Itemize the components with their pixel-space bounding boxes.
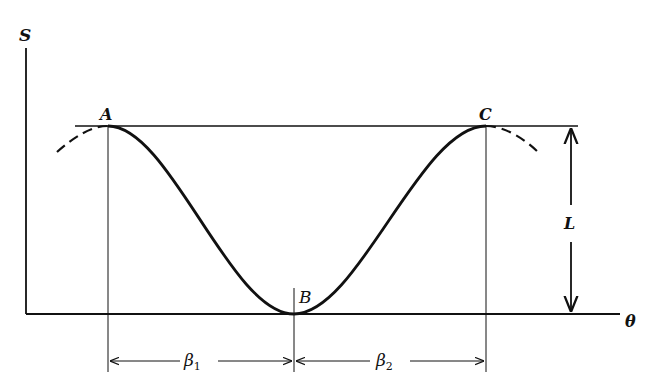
span2-subscript: 2 <box>386 360 393 373</box>
height-label: L <box>564 216 575 232</box>
diagram-canvas <box>0 0 653 384</box>
curve-solid <box>108 126 486 314</box>
y-axis-label: S <box>19 27 31 44</box>
point-a-label: A <box>100 107 112 123</box>
curve-dashed-left <box>57 126 108 152</box>
x-axis-label: θ <box>625 314 636 330</box>
point-b-label: B <box>299 289 312 306</box>
point-c-label: C <box>479 107 492 123</box>
span1-symbol: β <box>184 350 194 370</box>
span1-label: β1 <box>184 352 201 372</box>
span2-label: β2 <box>376 352 393 372</box>
span2-symbol: β <box>376 350 386 370</box>
span1-subscript: 1 <box>194 360 201 373</box>
curve-dashed-right <box>486 126 540 154</box>
